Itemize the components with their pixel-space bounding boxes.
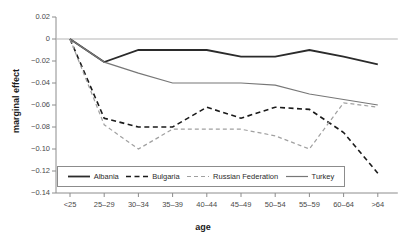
legend-swatch-icon	[187, 173, 209, 180]
legend-item-russian-federation[interactable]: Russian Federation	[187, 172, 278, 181]
series-line-bulgaria	[70, 39, 378, 173]
legend-item-label: Albania	[94, 172, 119, 181]
legend-item-label: Turkey	[312, 172, 335, 181]
series-line-albania	[70, 39, 378, 64]
legend-item-label: Bulgaria	[152, 172, 180, 181]
legend-item-turkey[interactable]: Turkey	[286, 172, 335, 181]
plot-area	[0, 0, 406, 241]
legend-swatch-icon	[286, 173, 308, 180]
legend-swatch-icon	[68, 173, 90, 180]
series-line-turkey	[70, 39, 378, 105]
legend-item-bulgaria[interactable]: Bulgaria	[126, 172, 180, 181]
legend-swatch-icon	[126, 173, 148, 180]
marginal-effect-line-chart: marginal effect age 0.020−0.02−0.04−0.06…	[0, 0, 406, 241]
chart-legend: AlbaniaBulgariaRussian FederationTurkey	[57, 166, 345, 187]
legend-item-albania[interactable]: Albania	[68, 172, 119, 181]
series-line-russian-federation	[70, 39, 378, 149]
legend-item-label: Russian Federation	[213, 172, 278, 181]
